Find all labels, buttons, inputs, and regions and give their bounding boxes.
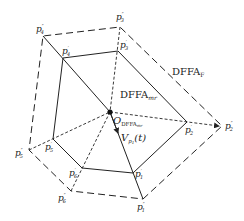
label-p5-inner: p′5	[45, 141, 53, 153]
label-p2-inner: p′2	[185, 124, 193, 136]
label-p4-inner: p′4	[62, 45, 70, 57]
label-velocity: Vp1(t)	[121, 132, 146, 145]
dffa-polygon-diagram: DFFAF DFFAmr ODFFAmr Vp1(t) p″4 p″3 p″2 …	[0, 0, 244, 221]
label-p5-outer: p″5	[15, 147, 23, 159]
label-p1-outer: p″1	[137, 201, 145, 213]
inner-polygon-dffa-mr	[53, 51, 187, 173]
label-dffa-f: DFFAF	[172, 66, 204, 78]
label-center-o: ODFFAmr	[113, 115, 144, 128]
label-p2-outer: p″2	[225, 120, 233, 132]
label-p3-inner: p′3	[120, 39, 128, 51]
center-point-o	[107, 109, 112, 114]
label-p6-inner: p′6	[69, 167, 78, 179]
label-p1-inner: p′1	[135, 168, 143, 180]
label-dffa-mr: DFFAmr	[120, 89, 158, 101]
label-p4-outer: p″4	[36, 23, 44, 35]
spoke-dashed-p3	[110, 27, 120, 112]
spoke-dashed-p5	[29, 112, 110, 150]
label-p6-outer: p″6	[58, 192, 67, 204]
spoke-dashed-p6	[71, 112, 110, 191]
spoke-solid-p4	[43, 36, 110, 112]
label-p3-outer: p″3	[116, 11, 124, 23]
